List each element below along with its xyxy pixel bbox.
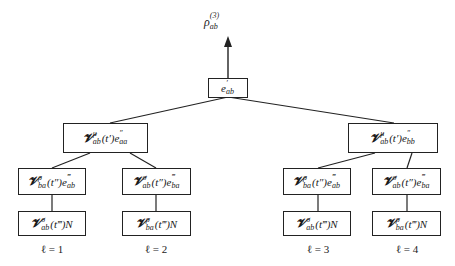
- level4-node-4: 𝓥ρba(t‴)N: [372, 211, 441, 236]
- level4-node-2: 𝓥ρba(t‴)N: [122, 211, 191, 236]
- level3-node-4: 𝓥σab(t″)e‴ba: [372, 168, 441, 195]
- level3-node-3: 𝓥ρba(t″)e‴ab: [283, 168, 351, 195]
- root-node-box: e′ab: [208, 78, 248, 98]
- level3-node-1: 𝓥ρba(t″)e‴ab: [18, 168, 86, 195]
- level4-node-3: 𝓥σab(t‴)N: [283, 211, 351, 236]
- level2-node-right: 𝓥μab(t′)e″bb: [348, 123, 438, 153]
- level4-node-1: 𝓥σab(t‴)N: [18, 211, 86, 236]
- pathway-label-2: ℓ = 2: [126, 243, 186, 255]
- rho-output-label: ρab(3): [204, 14, 227, 31]
- pathway-label-4: ℓ = 4: [377, 243, 437, 255]
- pathway-label-3: ℓ = 3: [288, 243, 348, 255]
- arrowhead-icon: [224, 36, 232, 47]
- level2-node-left: 𝓥μab(t′)e″aa: [63, 123, 148, 153]
- pathway-label-1: ℓ = 1: [22, 243, 82, 255]
- level3-node-2: 𝓥σab(t″)e‴ba: [122, 168, 191, 195]
